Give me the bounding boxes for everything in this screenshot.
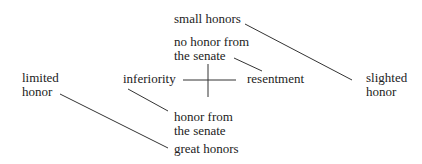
node-small-honors: small honors — [174, 12, 241, 26]
node-text: resentment — [247, 72, 304, 86]
node-text: honor from — [174, 110, 233, 124]
node-text: the senate — [174, 124, 233, 138]
node-text: the senate — [174, 49, 249, 63]
node-limited-honor: limited honor — [22, 71, 59, 99]
node-honor-from-senate: honor from the senate — [174, 110, 233, 138]
node-great-honors: great honors — [174, 142, 239, 156]
node-inferiority: inferiority — [123, 72, 176, 86]
node-text: honor — [366, 85, 407, 99]
node-resentment: resentment — [247, 72, 304, 86]
node-text: great honors — [174, 142, 239, 156]
node-text: slighted — [366, 71, 407, 85]
node-text: small honors — [174, 12, 241, 26]
node-text: inferiority — [123, 72, 176, 86]
node-slighted-honor: slighted honor — [366, 71, 407, 99]
node-no-honor-from-senate: no honor from the senate — [174, 35, 249, 63]
node-text: no honor from — [174, 35, 249, 49]
node-text: honor — [22, 85, 59, 99]
line-inferiority-to-honor-from-senate — [128, 89, 168, 111]
node-text: limited — [22, 71, 59, 85]
